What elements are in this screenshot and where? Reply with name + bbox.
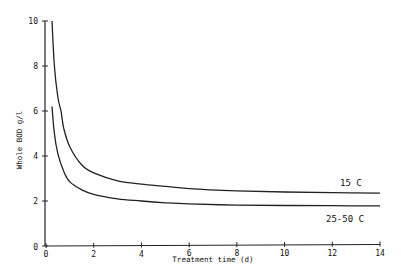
x-tick-label: 12 bbox=[327, 249, 337, 258]
curves bbox=[52, 21, 380, 206]
x-axis-label: Treatment time (d) bbox=[172, 255, 253, 264]
series-label-15c: 15 C bbox=[340, 178, 362, 188]
y-tick-label: 4 bbox=[33, 152, 38, 161]
y-tick-label: 2 bbox=[33, 197, 38, 206]
y-tick-label: 10 bbox=[28, 17, 38, 26]
x-tick-label: 10 bbox=[280, 249, 290, 258]
y-tick-label: 0 bbox=[33, 243, 38, 252]
x-tick-label: 0 bbox=[44, 250, 49, 259]
series-line-15c bbox=[52, 21, 380, 193]
y-axis-label: Whole BOD g/l bbox=[15, 111, 24, 170]
line-chart: 024681012140246810 15 C 25-50 C Treatmen… bbox=[0, 0, 401, 278]
x-tick-label: 4 bbox=[139, 250, 144, 259]
x-axis-line bbox=[46, 245, 380, 247]
series-line-25-50c bbox=[52, 107, 380, 206]
x-tick-label: 14 bbox=[375, 249, 385, 258]
x-tick-label: 2 bbox=[91, 250, 96, 259]
y-tick-label: 6 bbox=[33, 107, 38, 116]
series-label-25-50c: 25-50 C bbox=[326, 214, 364, 224]
y-tick-label: 8 bbox=[33, 62, 38, 71]
